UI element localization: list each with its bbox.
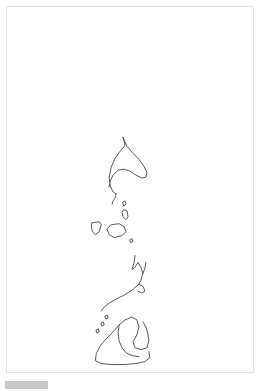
sketch-shape-sulu-dots [96,315,108,333]
sketch-shape-palawan-diagonal [101,284,139,311]
sketch-shape-island-marinduque [123,201,126,206]
sketch-shape-mindanao-inner [118,325,139,357]
sketch-shape-island-catanduanes [122,210,128,220]
philippines-archipelago-sketch [7,7,253,372]
screenshot-root [0,0,257,391]
sketch-shape-island-panay [107,224,126,238]
document-page [6,6,254,373]
sketch-shape-samar-leyte-hook [138,284,145,293]
sketch-shape-island-negros-dot [130,239,133,243]
sketch-shape-island-mindoro [91,222,101,235]
footer-progress-bar [5,381,48,389]
sketch-shape-luzon [109,137,147,194]
footer-bar-label [5,381,6,382]
sketch-shape-bicol-tail [112,194,116,204]
sketch-shape-visayas-zigzag [132,255,146,284]
sketch-strokes [91,137,150,364]
